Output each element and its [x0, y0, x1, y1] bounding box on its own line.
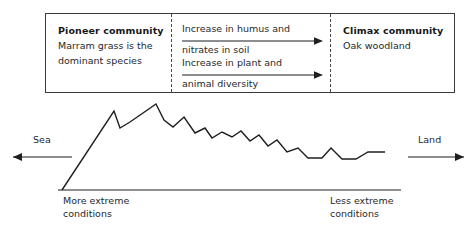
land-arrow-icon [408, 153, 464, 161]
right-axis-caption-line1: Less extreme [330, 194, 394, 207]
change-item-humus: Increase in humus and nitrates in soil [182, 22, 326, 36]
right-axis-caption-line2: conditions [330, 207, 394, 220]
dune-profile-line [62, 104, 385, 190]
right-axis-caption: Less extreme conditions [330, 194, 394, 220]
left-axis-caption-line1: More extreme [63, 194, 129, 207]
change-item-humus-line1: Increase in humus and [182, 22, 326, 36]
change-item-diversity-line2: animal diversity [182, 78, 258, 89]
change-item-humus-line2: nitrates in soil [182, 44, 249, 55]
succession-box: Pioneer community Marram grass is the do… [45, 13, 455, 93]
land-label: Land [418, 134, 441, 145]
pioneer-community-title: Pioneer community [58, 25, 164, 36]
change-item-diversity: Increase in plant and animal diversity [182, 56, 326, 70]
sea-arrow-icon [13, 153, 72, 161]
sea-label: Sea [33, 134, 51, 145]
pioneer-community-line2: dominant species [58, 55, 142, 66]
left-axis-caption-line2: conditions [63, 207, 129, 220]
climax-community-title: Climax community [343, 25, 443, 36]
pioneer-community-line1: Marram grass is the [58, 40, 153, 51]
pioneer-community-panel: Pioneer community Marram grass is the do… [46, 14, 171, 92]
climax-community-panel: Climax community Oak woodland [331, 14, 456, 92]
left-axis-caption: More extreme conditions [63, 194, 129, 220]
climax-community-line1: Oak woodland [343, 40, 411, 51]
diagram-page: Pioneer community Marram grass is the do… [0, 0, 476, 232]
change-item-diversity-line1: Increase in plant and [182, 56, 326, 70]
succession-changes-panel: Increase in humus and nitrates in soil I… [171, 14, 331, 92]
